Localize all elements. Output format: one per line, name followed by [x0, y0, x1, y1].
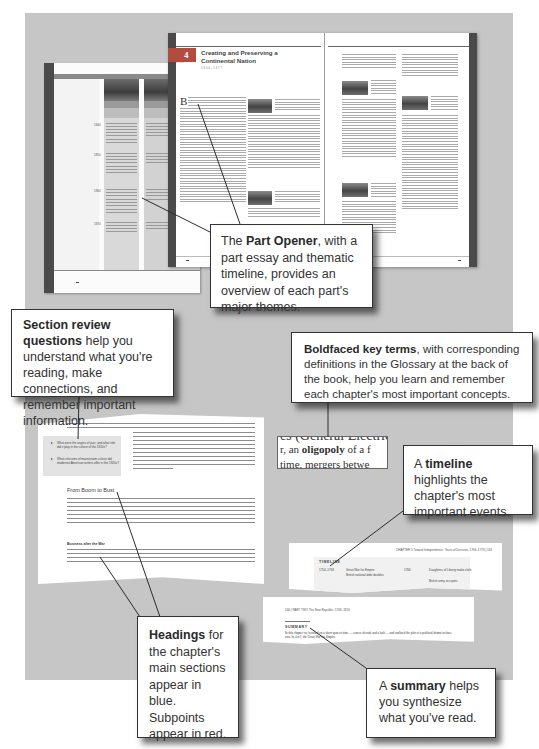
timeline-column	[104, 79, 139, 271]
summary-text: In this chapter we focused on a short sp…	[285, 631, 455, 639]
key-term: oligopoly	[302, 443, 345, 455]
bullet-arrow-icon	[51, 458, 53, 460]
excerpt-line: r, an oligopoly of a f	[280, 443, 371, 455]
timeline-date: 1766	[404, 568, 411, 572]
subpoint-heading: Business after the War	[67, 542, 105, 546]
timeline-event: British national debt doubles	[346, 573, 384, 577]
essay-column	[188, 97, 246, 107]
page-edge	[44, 63, 54, 293]
column-heading	[104, 101, 139, 108]
timeline-date: 1754–1763	[319, 568, 334, 572]
running-header: 166 | PART TWO The New Republic, 1763–18…	[285, 608, 350, 612]
page-edge	[469, 33, 477, 267]
part-label: PART	[176, 61, 184, 64]
summary-title: SUMMARY	[285, 625, 308, 629]
essay-column	[402, 54, 458, 77]
excerpt-line: time, mergers betwe	[280, 458, 369, 469]
summary-excerpt: 166 | PART TWO The New Republic, 1763–18…	[263, 597, 474, 644]
timeline-year: 1850	[94, 153, 101, 157]
key-term-excerpt: es (General Electric) r, an oligopoly of…	[277, 436, 388, 469]
page-edge	[168, 33, 176, 267]
timeline-year: 1870	[94, 222, 101, 226]
timeline-year: 1860	[94, 189, 101, 193]
review-question: What criticisms of mainstream culture di…	[57, 457, 119, 465]
running-header: CHAPTER 5 Toward Independence: Years of …	[396, 548, 492, 552]
essay-column	[180, 108, 246, 204]
column-photo	[104, 79, 139, 101]
timeline-event: Great War for Empire	[346, 568, 374, 572]
review-question: What were the origins of jazz, and what …	[57, 441, 119, 449]
main-section-heading: From Boom to Bust	[67, 487, 114, 493]
page-margin	[54, 79, 99, 271]
callout-key-terms: Boldfaced key terms, with corresponding …	[291, 332, 533, 403]
page-number	[186, 260, 189, 261]
timeline-title: TIMELINE	[319, 560, 341, 564]
essay-photo	[248, 191, 272, 205]
essay-column	[248, 115, 320, 169]
callout-part-opener: The Part Opener, with a part essay and t…	[210, 224, 373, 308]
essay-column	[371, 183, 396, 199]
part-number: 4	[184, 50, 189, 60]
part-number-band	[168, 48, 196, 62]
part-title: Creating and Preserving a Continental Na…	[201, 49, 311, 65]
review-questions-box: What were the origins of jazz, and what …	[43, 436, 121, 476]
essay-column	[342, 54, 396, 70]
bullet-arrow-icon	[51, 442, 53, 444]
essay-column	[431, 96, 458, 112]
part-dates: 1844–1877	[201, 67, 223, 70]
essay-column	[248, 208, 320, 218]
essay-column	[342, 99, 396, 159]
callout-summary: A summary helps you synthesize what you'…	[366, 668, 496, 738]
callout-section-review: Section review questions help you unders…	[11, 309, 174, 397]
callout-headings: Headings for the chapter's main sections…	[137, 616, 239, 738]
section-review-excerpt: What were the origins of jazz, and what …	[38, 414, 264, 584]
essay-column	[371, 80, 396, 96]
page-number	[458, 260, 461, 261]
essay-photo	[248, 99, 272, 113]
timeline-event: Daughters of Liberty make cloth	[429, 568, 471, 572]
timeline-year: 1844	[94, 123, 101, 127]
essay-column	[402, 115, 458, 211]
essay-photo	[402, 96, 428, 110]
essay-column	[275, 99, 320, 112]
page-footer	[54, 270, 200, 293]
timeline-event: British army occupies	[429, 579, 458, 583]
essay-photo	[342, 183, 368, 197]
essay-column	[275, 191, 320, 204]
callout-timeline: A timeline highlights the chapter's most…	[403, 445, 533, 515]
column-subheading	[104, 108, 139, 118]
essay-photo	[342, 81, 368, 95]
drop-cap: B	[180, 95, 187, 107]
timeline-excerpt: CHAPTER 5 Toward Independence: Years of …	[289, 543, 502, 593]
